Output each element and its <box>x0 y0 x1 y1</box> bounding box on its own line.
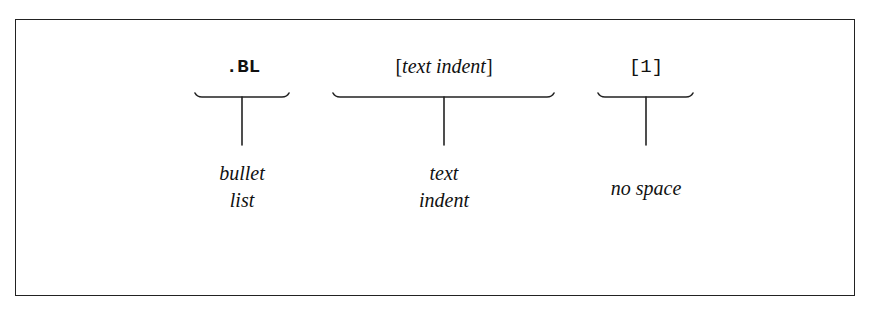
bracket-open: [ <box>395 55 402 77</box>
syntax-macro: .BL <box>226 56 260 78</box>
label-indent: text indent <box>419 160 469 214</box>
bracket-close: ] <box>486 55 493 77</box>
label-spacing: no space <box>611 175 682 202</box>
label-line: no space <box>611 175 682 202</box>
syntax-spacing: [1] <box>629 56 663 78</box>
label-line: list <box>219 187 265 214</box>
label-line: indent <box>419 187 469 214</box>
brace-connectors <box>0 0 874 313</box>
label-line: bullet <box>219 160 265 187</box>
syntax-indent-text: text indent <box>402 55 486 77</box>
label-line: text <box>419 160 469 187</box>
label-macro: bullet list <box>219 160 265 214</box>
syntax-indent: [text indent] <box>395 55 492 78</box>
